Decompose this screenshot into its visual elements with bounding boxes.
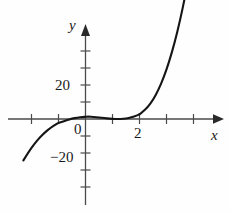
graph-canvas <box>0 0 231 213</box>
cubic-function-graph: 20 −20 0 2 y x <box>0 0 231 213</box>
y-axis-label: y <box>69 18 76 33</box>
x-tick-label-2: 2 <box>134 126 142 141</box>
x-tick-label-0: 0 <box>74 122 82 137</box>
y-tick-label-20: 20 <box>55 78 70 93</box>
x-axis-label: x <box>211 128 218 143</box>
y-axis-arrow-icon <box>81 24 90 36</box>
x-axis-arrow-icon <box>213 114 224 124</box>
y-tick-label-neg20: −20 <box>50 150 73 165</box>
function-curve <box>23 0 190 160</box>
